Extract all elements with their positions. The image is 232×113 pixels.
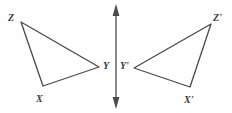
vertex-label-x: X [36, 94, 43, 104]
vertex-label-y-prime: Y' [120, 61, 129, 71]
vertex-label-y: Y [103, 61, 109, 71]
vertex-label-z: Z [8, 13, 14, 23]
line-of-reflection-arrow-up-icon [113, 4, 120, 16]
line-of-reflection-arrow-down-icon [113, 97, 120, 109]
reflection-diagram: Z Y X Z' Y' X' [0, 0, 232, 113]
triangle-x-prime-y-prime-z-prime-shape [134, 24, 211, 87]
vertex-label-z-prime: Z' [213, 13, 222, 23]
vertex-label-x-prime: X' [184, 95, 193, 105]
figure-canvas [0, 0, 232, 113]
triangle-xyz-shape [21, 22, 99, 86]
